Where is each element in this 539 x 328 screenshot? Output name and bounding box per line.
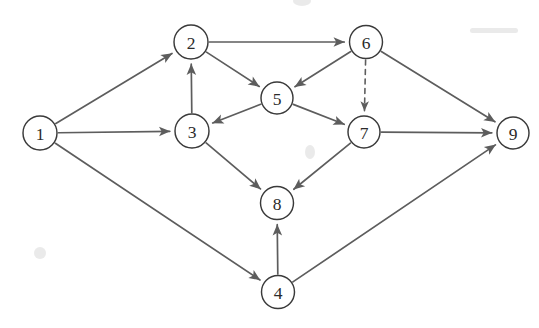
node-label-4: 4 (274, 283, 283, 303)
edge-1-to-4 (55, 143, 260, 280)
graph-diagram: 123456789 (0, 0, 539, 328)
graph-canvas: 123456789 (0, 0, 539, 328)
edge-1-to-2 (56, 53, 172, 123)
node-label-2: 2 (187, 33, 196, 53)
graph-node-5[interactable]: 5 (261, 82, 293, 114)
edge-7-to-8 (294, 143, 351, 189)
node-label-9: 9 (509, 124, 518, 144)
node-label-7: 7 (360, 123, 369, 143)
node-label-1: 1 (36, 124, 45, 144)
graph-node-1[interactable]: 1 (23, 116, 57, 150)
graph-node-9[interactable]: 9 (497, 117, 529, 149)
graph-node-4[interactable]: 4 (262, 276, 295, 309)
edge-3-to-8 (206, 143, 260, 189)
graph-node-7[interactable]: 7 (348, 116, 380, 148)
edge-2-to-5 (207, 52, 260, 86)
graph-node-3[interactable]: 3 (175, 114, 209, 148)
graph-node-8[interactable]: 8 (261, 187, 294, 220)
node-layer: 123456789 (23, 25, 529, 309)
node-label-3: 3 (188, 122, 197, 142)
edge-5-to-3 (213, 104, 261, 123)
edge-6-to-9 (381, 51, 495, 121)
edge-6-to-5 (295, 52, 351, 87)
edge-3-to-2 (191, 64, 192, 112)
node-label-8: 8 (273, 194, 282, 214)
edge-6-to-7 (364, 60, 365, 111)
graph-node-6[interactable]: 6 (350, 26, 383, 59)
node-label-5: 5 (273, 89, 282, 109)
edge-7-to-9 (382, 132, 492, 133)
edge-1-to-3 (59, 131, 170, 132)
graph-node-2[interactable]: 2 (174, 25, 208, 59)
edge-layer (55, 42, 495, 282)
edge-4-to-8 (277, 225, 278, 274)
node-label-6: 6 (362, 33, 371, 53)
edge-5-to-7 (293, 104, 344, 124)
